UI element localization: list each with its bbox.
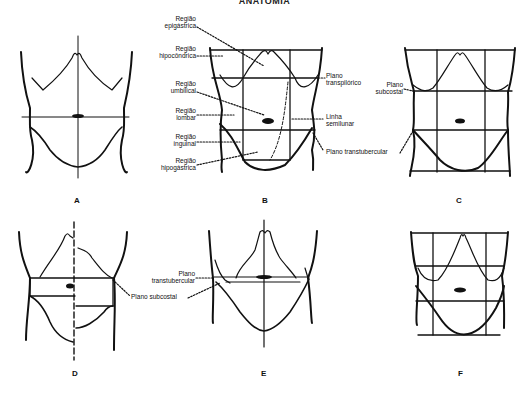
panel-e-torso: [188, 220, 317, 347]
panel-letter-d: D: [72, 369, 78, 378]
panel-letter-e: E: [261, 369, 266, 378]
label-regiao-hipogastrica: Região hipogástrica: [146, 157, 196, 171]
label-plano-subcostal-d: Plano subcostal: [131, 293, 177, 300]
panel-f-torso: [411, 232, 508, 335]
label-linha-semilunar: Linha semilunar: [326, 113, 354, 127]
panel-d-torso: [19, 222, 130, 360]
panel-letter-c: C: [456, 196, 462, 205]
label-plano-subcostal-c: Plano subcostal: [368, 81, 403, 95]
panel-letter-a: A: [74, 196, 80, 205]
panel-c-torso: [400, 48, 515, 176]
label-plano-transtubercular: Plano transtubercular: [326, 148, 388, 155]
label-regiao-hipocondrica: Região hipocôndrica: [146, 45, 196, 59]
label-regiao-lombar: Região lombar: [146, 107, 196, 121]
label-regiao-epigastrica: Região epigástrica: [146, 15, 196, 29]
panel-letter-b: B: [262, 196, 268, 205]
label-regiao-inguinal: Região inguinal: [146, 133, 196, 147]
panel-letter-f: F: [458, 369, 463, 378]
panel-b-torso: [197, 27, 325, 172]
label-regiao-umbilical: Região umbilical: [146, 80, 196, 94]
label-plano-transtubercular-e: Plano transtubercular: [140, 270, 195, 284]
panel-a-torso: [21, 36, 132, 178]
label-plano-transpilorico: Plano transpilórico: [326, 72, 361, 86]
